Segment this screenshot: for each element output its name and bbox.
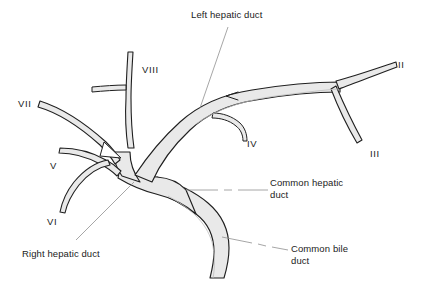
label-common-hepatic-duct-line2: duct (270, 189, 288, 201)
label-segment-VII: VII (18, 98, 31, 110)
segment-IV-duct (212, 113, 247, 141)
label-segment-VIII: VIII (142, 64, 159, 76)
segment-VIII-duct (126, 52, 134, 148)
figure-canvas: Left hepatic duct Right hepatic duct Com… (0, 0, 425, 286)
label-common-bile-duct-line1: Common bile (291, 243, 348, 255)
label-segment-V: V (50, 160, 57, 172)
duct-crossing-fenestration (100, 142, 121, 158)
label-segment-VI: VI (47, 216, 57, 228)
label-left-hepatic-duct: Left hepatic duct (191, 9, 262, 21)
left-hepatic-duct-body (135, 82, 340, 182)
label-segment-IV: IV (247, 138, 257, 150)
label-common-hepatic-duct-line1: Common hepatic (270, 177, 343, 189)
segment-VI-duct (60, 160, 110, 213)
leader-right-hepatic-duct (76, 182, 134, 240)
leader-left-hepatic-duct (200, 27, 228, 108)
label-segment-II: II (398, 59, 404, 71)
label-right-hepatic-duct: Right hepatic duct (22, 248, 100, 260)
leader-common-bile-duct (222, 237, 288, 250)
segment-VIII-side-branch (92, 85, 126, 92)
label-segment-III: III (370, 148, 380, 160)
biliary-tree-drawing (0, 0, 425, 286)
label-common-bile-duct-line2: duct (291, 255, 309, 267)
segment-II-duct (336, 62, 397, 89)
segment-III-duct (331, 86, 362, 143)
